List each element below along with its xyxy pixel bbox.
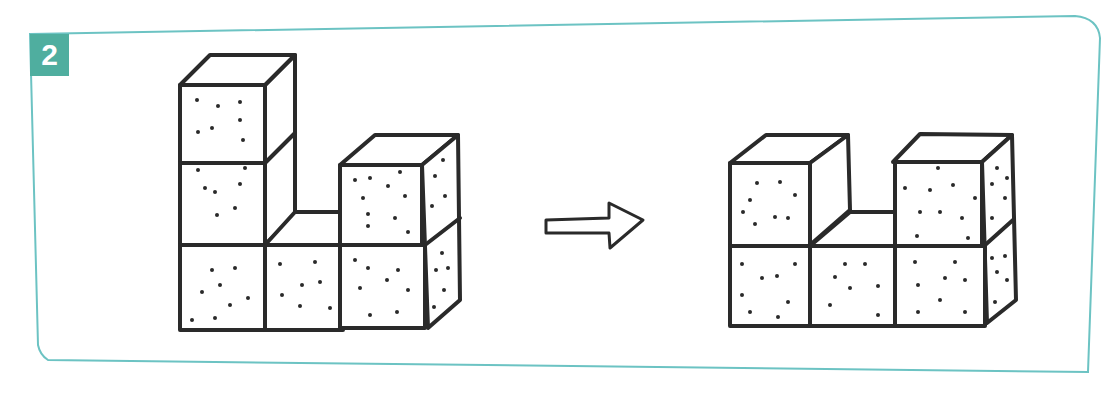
diagram-canvas bbox=[0, 0, 1117, 394]
exercise-number-badge: 2 bbox=[30, 34, 69, 76]
before-structure bbox=[180, 55, 460, 330]
after-structure bbox=[730, 134, 1016, 326]
arrow-right-icon bbox=[546, 203, 643, 248]
